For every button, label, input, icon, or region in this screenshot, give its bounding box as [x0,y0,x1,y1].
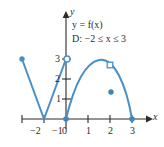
y-axis-arrow-icon [63,11,70,18]
closed-point-left-end [19,56,24,61]
function-graph-figure: y = f(x) D: −2 ≤ x ≤ 3 −2 −1 0 1 2 3 3 2… [0,0,164,147]
y-tick-label-2: 2 [55,74,60,84]
x-tick-label-0: 0 [62,126,67,136]
x-tick-label-3: 3 [130,126,135,136]
y-tick-label-3: 3 [55,54,60,64]
x-tick-label--2: −2 [30,126,41,136]
parabola-right-branch [66,60,132,119]
closed-point-right-end [129,116,135,122]
open-point-origin-top [64,56,70,62]
x-axis-label: x [153,112,157,122]
point-markers-group [19,56,135,122]
domain-label: D: −2 ≤ x ≤ 3 [72,32,126,46]
segment-left-descending [22,59,44,119]
x-tick-label-1: 1 [86,126,91,136]
function-definition-label: y = f(x) [72,18,126,32]
isolated-closed-point [108,89,113,94]
function-curve-group [22,59,132,119]
x-tick-label-2: 2 [108,126,113,136]
y-tick-label-1: 1 [56,94,61,104]
closed-point-origin [63,116,69,122]
function-annotation: y = f(x) D: −2 ≤ x ≤ 3 [72,18,126,45]
segment-left-ascending [44,59,66,119]
y-axis-label: y [70,7,74,17]
x-axis-arrow-icon [146,116,153,123]
open-point-on-parabola [107,62,113,68]
